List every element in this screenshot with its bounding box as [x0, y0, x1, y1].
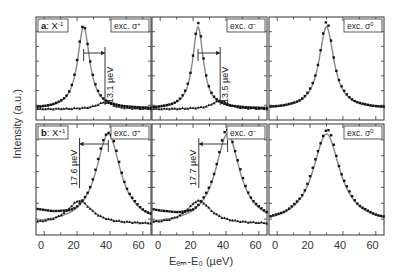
panel-a-3: exc. σ0	[269, 17, 385, 120]
tick-label: 40	[100, 239, 112, 251]
tick-label: 60	[132, 239, 144, 251]
excitation-label: exc. σ+	[114, 128, 140, 138]
panel-a-2: exc. σ−13.5 µeV	[152, 17, 268, 120]
excitation-label: exc. σ0	[347, 128, 373, 138]
panel-b-1: exc. σ+b: X+117.6 µeV	[36, 124, 152, 235]
panel-b-2: exc. σ−17.7 µeV	[152, 124, 268, 235]
tick-label: 40	[217, 239, 229, 251]
tick-label: 60	[249, 239, 261, 251]
tick-label: 0	[272, 239, 278, 251]
tick-label: 60	[366, 239, 378, 251]
tick-label: 0	[155, 239, 161, 251]
tick-label: 0	[38, 239, 44, 251]
tick-label: 40	[334, 239, 346, 251]
splitting-annotation: 13.5 µeV	[220, 67, 230, 103]
splitting-annotation: 13.1 µeV	[105, 67, 115, 103]
x-axis-label: Eₑₘ-E₀ (µeV)	[0, 255, 402, 268]
excitation-label: exc. σ−	[230, 128, 256, 138]
tick-label: 20	[67, 239, 79, 251]
figure: exc. σ+a: X-113.1 µeVexc. σ−13.5 µeVexc.…	[0, 0, 402, 277]
excitation-label: exc. σ+	[114, 21, 140, 31]
tick-label: 20	[301, 239, 313, 251]
splitting-annotation: 17.7 µeV	[188, 150, 198, 186]
x-tick-labels: 0 20 40 60 0 20 40 60 0 20 40 60	[38, 239, 379, 251]
y-axis-label: Intensity (a.u.)	[11, 89, 23, 159]
excitation-label: exc. σ−	[230, 21, 256, 31]
tick-label: 20	[184, 239, 196, 251]
x-axis-label-text: Eₑₘ-E₀ (µeV)	[169, 255, 233, 267]
splitting-annotation: 17.6 µeV	[69, 150, 79, 186]
panel-a-1: exc. σ+a: X-113.1 µeV	[36, 17, 152, 120]
excitation-label: exc. σ0	[347, 21, 373, 31]
panel-b-3: exc. σ0	[269, 124, 385, 235]
